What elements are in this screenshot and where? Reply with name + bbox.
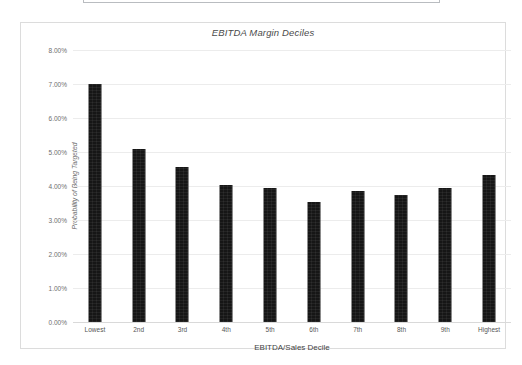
clipped-text-box [83, 0, 440, 3]
bar-group: Lowest [73, 50, 117, 322]
bar-group: 3rd [161, 50, 205, 322]
bar [220, 185, 233, 322]
y-axis-tick-label: 7.00% [49, 81, 67, 88]
x-axis-tick-label: 6th [309, 326, 318, 333]
y-axis-tick-label: 4.00% [49, 183, 67, 190]
bar [483, 175, 496, 322]
x-axis-tick-label: 5th [266, 326, 275, 333]
y-axis-tick-label: 6.00% [49, 115, 67, 122]
bar [264, 188, 277, 322]
x-axis-title: EBITDA/Sales Decile [73, 343, 511, 352]
bar-group: 9th [423, 50, 467, 322]
bar-group: 8th [380, 50, 424, 322]
bar [439, 188, 452, 322]
x-axis-tick-label: 9th [441, 326, 450, 333]
plot-area: 0.00%1.00%2.00%3.00%4.00%5.00%6.00%7.00%… [73, 50, 511, 322]
x-axis-tick-label: 7th [353, 326, 362, 333]
bar-group: Highest [467, 50, 511, 322]
x-axis-tick-label: Lowest [85, 326, 106, 333]
bar-group: 4th [204, 50, 248, 322]
x-axis-tick-label: 8th [397, 326, 406, 333]
bar-group: 2nd [117, 50, 161, 322]
bar [307, 202, 320, 322]
bar [132, 149, 145, 322]
y-axis-tick-label: 8.00% [49, 47, 67, 54]
x-axis-tick-label: 4th [222, 326, 231, 333]
bar [88, 84, 101, 322]
bar [351, 191, 364, 322]
bar-series: Lowest2nd3rd4th5th6th7th8th9thHighest [73, 50, 511, 322]
x-axis-tick-label: 3rd [178, 326, 187, 333]
bar [176, 167, 189, 322]
y-axis-tick-label: 3.00% [49, 217, 67, 224]
y-axis-tick-label: 0.00% [49, 319, 67, 326]
x-axis-tick-label: 2nd [133, 326, 144, 333]
y-axis-tick-label: 2.00% [49, 251, 67, 258]
chart-container: EBITDA Margin Deciles Probability of Bei… [20, 22, 506, 349]
bar-group: 6th [292, 50, 336, 322]
y-axis-tick-label: 1.00% [49, 285, 67, 292]
bar-group: 7th [336, 50, 380, 322]
y-axis-tick-label: 5.00% [49, 149, 67, 156]
chart-title: EBITDA Margin Deciles [21, 27, 505, 38]
bar [395, 195, 408, 323]
chart-page: EBITDA Margin Deciles Probability of Bei… [0, 0, 522, 365]
x-axis-tick-label: Highest [478, 326, 500, 333]
bar-group: 5th [248, 50, 292, 322]
gridline [73, 322, 511, 323]
